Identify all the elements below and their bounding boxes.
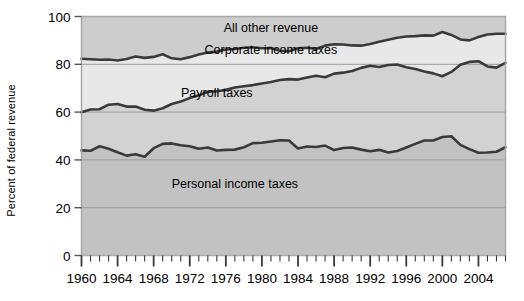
y-tick-label-40: 40 <box>35 152 71 167</box>
x-tick-label-1968: 1968 <box>139 271 169 286</box>
x-tick-label-1988: 1988 <box>319 271 349 286</box>
series-annotation-all-other-revenue: All other revenue <box>224 21 319 35</box>
series-annotation-corporate-income-taxes: Corporate income taxes <box>205 43 338 57</box>
x-tick-label-1960: 1960 <box>66 271 96 286</box>
y-tick-label-0: 0 <box>35 248 71 263</box>
y-axis-label: Percent of federal revenue <box>0 0 22 301</box>
y-tick-label-20: 20 <box>35 200 71 215</box>
series-annotation-payroll-taxes: Payroll taxes <box>181 86 253 100</box>
y-tick-label-100: 100 <box>35 9 71 24</box>
x-tick-label-1984: 1984 <box>283 271 313 286</box>
x-tick-label-1976: 1976 <box>211 271 241 286</box>
y-tick-label-80: 80 <box>35 57 71 72</box>
x-tick-label-1980: 1980 <box>247 271 277 286</box>
x-tick-label-1996: 1996 <box>391 271 421 286</box>
x-tick-label-2004: 2004 <box>463 271 493 286</box>
x-tick-label-2000: 2000 <box>427 271 457 286</box>
stacked-area-chart: Percent of federal revenue 020406080100 … <box>0 0 524 301</box>
x-tick-label-1964: 1964 <box>103 271 133 286</box>
x-tick-label-1992: 1992 <box>355 271 385 286</box>
y-tick-label-60: 60 <box>35 105 71 120</box>
series-annotation-personal-income-taxes: Personal income taxes <box>172 177 298 191</box>
x-tick-label-1972: 1972 <box>175 271 205 286</box>
